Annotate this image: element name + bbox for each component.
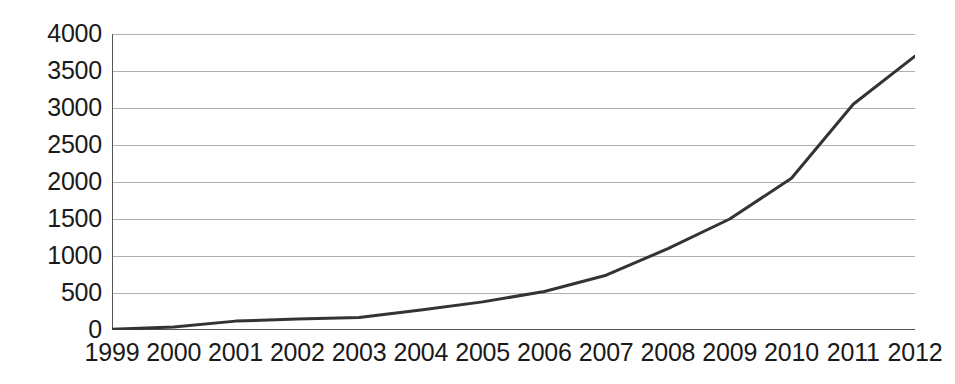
plot-area [112,34,915,330]
x-axis-tick-labels: 1999200020012002200320042005200620072008… [112,338,915,378]
y-tick-label: 3000 [2,95,102,120]
y-tick-label: 1500 [2,206,102,231]
y-tick-label: 500 [2,280,102,305]
y-axis-tick-labels: 05001000150020002500300035004000 [0,0,102,384]
series-line [112,56,915,329]
y-tick-label: 4000 [2,21,102,46]
y-tick-label: 2000 [2,169,102,194]
x-tick-label: 2012 [875,338,955,366]
line-chart: 05001000150020002500300035004000 1999200… [0,0,955,384]
data-series-line [112,34,915,330]
y-tick-label: 2500 [2,132,102,157]
y-tick-label: 3500 [2,58,102,83]
y-tick-label: 1000 [2,243,102,268]
